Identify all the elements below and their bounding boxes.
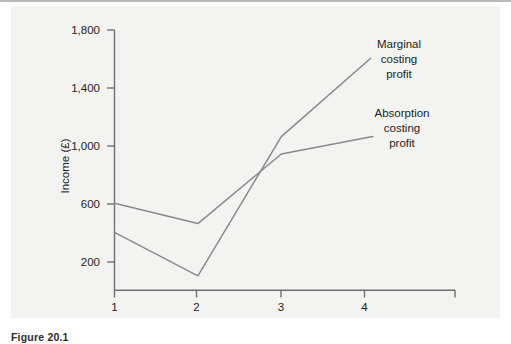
y-axis-ticks — [107, 30, 115, 262]
y-tick-label-200: 200 — [81, 256, 100, 268]
annotation-absorption-line-2: costing — [384, 122, 420, 134]
x-tick-label-4: 4 — [361, 301, 368, 313]
series-line-marginal-costing-profit — [115, 58, 371, 275]
y-tick-label-1000: 1,000 — [71, 140, 100, 152]
annotation-marginal-line-1: Marginal — [377, 38, 421, 50]
y-tick-label-1800: 1,800 — [71, 24, 100, 36]
chart-panel: 1,800 1,400 1,000 600 200 1 2 3 4 Income… — [11, 6, 500, 318]
x-tick-label-3: 3 — [278, 301, 284, 313]
x-axis-ticks — [115, 290, 456, 298]
figure-page: 1,800 1,400 1,000 600 200 1 2 3 4 Income… — [0, 0, 511, 344]
annotation-marginal-line-3: profit — [386, 68, 412, 80]
x-tick-label-1: 1 — [111, 301, 117, 313]
annotation-marginal-line-2: costing — [381, 53, 417, 65]
page-top-rule — [0, 0, 511, 2]
figure-caption: Figure 20.1 — [11, 331, 69, 344]
annotation-absorption-line-3: profit — [389, 137, 415, 149]
y-tick-label-600: 600 — [81, 198, 100, 210]
x-tick-label-2: 2 — [193, 301, 199, 313]
line-chart: 1,800 1,400 1,000 600 200 1 2 3 4 Income… — [11, 6, 500, 318]
annotation-marginal-costing-profit: Marginal costing profit — [377, 38, 421, 80]
annotation-absorption-line-1: Absorption — [375, 107, 430, 119]
series-line-absorption-costing-profit — [115, 137, 373, 224]
y-tick-label-1400: 1,400 — [71, 82, 100, 94]
y-axis-title: Income (£) — [59, 138, 71, 193]
annotation-absorption-costing-profit: Absorption costing profit — [375, 107, 430, 149]
